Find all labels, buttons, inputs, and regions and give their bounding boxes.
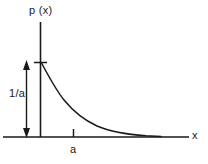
x-axis-tick-label-a: a <box>70 144 76 155</box>
y-axis-label: p (x) <box>29 5 53 16</box>
dimension-arrow-head-up <box>23 60 30 70</box>
x-axis-label: x <box>192 130 198 141</box>
y-intercept-annotation-label: 1/a <box>9 88 25 99</box>
figure-canvas <box>0 0 208 164</box>
exponential-pdf-figure: p (x) 1/a a x <box>0 0 208 164</box>
exponential-curve <box>42 63 162 136</box>
